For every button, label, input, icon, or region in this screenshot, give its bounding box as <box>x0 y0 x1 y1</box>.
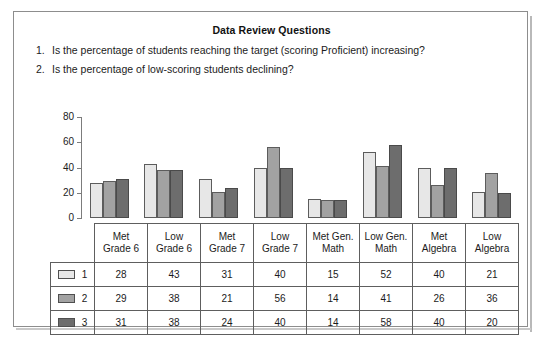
table-cell-value: 38 <box>148 311 201 335</box>
bar-series-1 <box>144 164 157 218</box>
bar-series-2 <box>376 166 389 218</box>
data-table-grid: MetGrade 6LowGrade 6MetGrade 7LowGrade 7… <box>50 223 519 335</box>
bar-group <box>137 117 192 218</box>
bar-series-2 <box>485 173 498 218</box>
question-1: 1.Is the percentage of students reaching… <box>36 44 425 56</box>
legend-label: 1 <box>82 269 88 280</box>
legend-cell-series-3: 3 <box>51 311 95 335</box>
bar-group <box>355 117 410 218</box>
worksheet-card: Data Review Questions 1.Is the percentag… <box>13 11 528 327</box>
legend-label: 3 <box>82 317 88 328</box>
column-header: LowAlgebra <box>466 224 519 263</box>
bar-group <box>246 117 301 218</box>
table-cell-value: 14 <box>307 287 360 311</box>
table-cell-value: 40 <box>413 263 466 287</box>
table-cell-value: 31 <box>201 263 254 287</box>
bar-series-2 <box>431 185 444 218</box>
table-cell-value: 14 <box>307 311 360 335</box>
question-1-number: 1. <box>36 44 52 56</box>
bar-series-3 <box>389 145 402 218</box>
column-header: Met Gen.Math <box>307 224 360 263</box>
table-cell-value: 31 <box>95 311 148 335</box>
card-shadow-right <box>530 16 532 332</box>
y-axis-tick <box>77 218 82 219</box>
table-cell-value: 29 <box>95 287 148 311</box>
legend-label: 2 <box>82 293 88 304</box>
legend-cell-series-1: 1 <box>51 263 95 287</box>
table-corner-cell <box>51 224 95 263</box>
table-cell-value: 38 <box>148 287 201 311</box>
bar-series-2 <box>267 147 280 218</box>
grouped-bar-chart: 020406080 <box>81 107 519 223</box>
column-header: MetAlgebra <box>413 224 466 263</box>
legend-swatch-icon <box>58 294 75 303</box>
table-cell-value: 15 <box>307 263 360 287</box>
bar-series-1 <box>363 152 376 218</box>
table-cell-value: 40 <box>413 311 466 335</box>
bar-series-2 <box>212 192 225 219</box>
bar-series-3 <box>280 168 293 219</box>
bar-series-3 <box>225 188 238 218</box>
bar-group <box>82 117 137 218</box>
table-cell-value: 41 <box>360 287 413 311</box>
legend-cell-series-2: 2 <box>51 287 95 311</box>
bar-series-2 <box>103 181 116 218</box>
bar-series-3 <box>334 200 347 218</box>
column-header: MetGrade 6 <box>95 224 148 263</box>
table-cell-value: 20 <box>466 311 519 335</box>
column-header: MetGrade 7 <box>201 224 254 263</box>
bar-group <box>191 117 246 218</box>
question-2-text: Is the percentage of low-scoring student… <box>52 63 294 75</box>
question-2-number: 2. <box>36 63 52 75</box>
table-header-row: MetGrade 6LowGrade 6MetGrade 7LowGrade 7… <box>51 224 519 263</box>
bar-series-2 <box>321 200 334 218</box>
y-axis-tick-label: 80 <box>63 112 74 122</box>
column-header: LowGrade 6 <box>148 224 201 263</box>
table-cell-value: 43 <box>148 263 201 287</box>
bar-series-1 <box>90 183 103 218</box>
data-table-body: MetGrade 6LowGrade 6MetGrade 7LowGrade 7… <box>51 224 519 335</box>
table-cell-value: 52 <box>360 263 413 287</box>
table-cell-value: 21 <box>201 287 254 311</box>
table-cell-value: 24 <box>201 311 254 335</box>
question-2: 2.Is the percentage of low-scoring stude… <box>36 63 294 75</box>
bar-series-3 <box>444 168 457 219</box>
table-cell-value: 40 <box>254 311 307 335</box>
legend-swatch-icon <box>58 270 75 279</box>
page-title: Data Review Questions <box>14 24 529 36</box>
table-cell-value: 56 <box>254 287 307 311</box>
bar-series-3 <box>170 170 183 218</box>
column-header: LowGrade 7 <box>254 224 307 263</box>
bar-group <box>410 117 465 218</box>
table-row: 12843314015524021 <box>51 263 519 287</box>
question-1-text: Is the percentage of students reaching t… <box>52 44 425 56</box>
bar-series-1 <box>254 168 267 219</box>
y-axis-tick-label: 0 <box>68 213 74 223</box>
column-header: Low Gen.Math <box>360 224 413 263</box>
table-cell-value: 58 <box>360 311 413 335</box>
table-cell-value: 26 <box>413 287 466 311</box>
chart-plot-area <box>82 117 519 218</box>
y-axis-tick-label: 60 <box>63 137 74 147</box>
legend-swatch-icon <box>58 318 75 327</box>
bar-series-1 <box>472 192 485 219</box>
table-row: 22938215614412636 <box>51 287 519 311</box>
table-cell-value: 28 <box>95 263 148 287</box>
table-cell-value: 36 <box>466 287 519 311</box>
bar-series-3 <box>116 179 129 218</box>
bar-series-3 <box>498 193 511 218</box>
table-cell-value: 40 <box>254 263 307 287</box>
bar-series-2 <box>157 170 170 218</box>
y-axis-tick-label: 20 <box>63 188 74 198</box>
bar-group <box>301 117 356 218</box>
table-row: 33138244014584020 <box>51 311 519 335</box>
table-cell-value: 21 <box>466 263 519 287</box>
bar-series-1 <box>308 199 321 218</box>
data-table: MetGrade 6LowGrade 6MetGrade 7LowGrade 7… <box>50 223 519 331</box>
bar-series-1 <box>199 179 212 218</box>
bar-series-1 <box>418 168 431 219</box>
screenshot-root: Data Review Questions 1.Is the percentag… <box>0 0 543 343</box>
y-axis-tick-label: 40 <box>63 163 74 173</box>
bar-group <box>464 117 519 218</box>
